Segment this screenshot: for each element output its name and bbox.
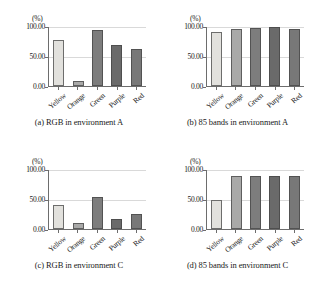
- bar-purple: [111, 219, 122, 229]
- plot-area-c: (%) 100.0050.000.00 YellowOrangeGreenPur…: [0, 143, 158, 289]
- x-tick-mark: [255, 87, 256, 90]
- bar-purple: [111, 45, 122, 86]
- x-tick-mark: [216, 87, 217, 90]
- bar-orange: [231, 29, 242, 86]
- x-tick-mark: [117, 87, 118, 90]
- y-tick-label-0-00: 0.00: [160, 225, 203, 234]
- y-tick-mark: [45, 87, 48, 88]
- bar-yellow: [211, 32, 222, 86]
- x-tick-mark: [97, 230, 98, 233]
- y-tick-label-0-00: 0.00: [160, 82, 203, 91]
- y-tick-label-100-00: 100.00: [160, 22, 203, 31]
- x-tick-mark: [235, 87, 236, 90]
- y-tick-mark: [45, 57, 48, 58]
- x-tick-mark: [77, 87, 78, 90]
- x-tick-mark: [294, 87, 295, 90]
- bar-red: [289, 29, 300, 86]
- x-tick-mark: [77, 230, 78, 233]
- chart-panel-c: (%) 100.0050.000.00 YellowOrangeGreenPur…: [0, 143, 158, 289]
- y-tick-mark: [203, 230, 206, 231]
- bar-series-b: [207, 27, 304, 86]
- y-tick-mark: [45, 27, 48, 28]
- bar-red: [131, 214, 142, 229]
- y-tick-mark: [203, 200, 206, 201]
- x-tick-mark: [136, 87, 137, 90]
- x-tick-mark: [235, 230, 236, 233]
- panel-caption-d: (d) 85 bands in environment C: [158, 260, 317, 270]
- bar-green: [250, 176, 261, 229]
- x-tick-mark: [136, 230, 137, 233]
- bar-series-a: [49, 27, 146, 86]
- bar-green: [92, 197, 103, 229]
- x-tick-mark: [58, 230, 59, 233]
- x-tick-mark: [294, 230, 295, 233]
- bar-orange: [73, 223, 84, 229]
- bar-series-d: [207, 170, 304, 229]
- y-tick-label-100-00: 100.00: [160, 165, 203, 174]
- x-tick-mark: [117, 230, 118, 233]
- axes-c: [48, 170, 146, 230]
- bar-yellow: [53, 40, 64, 86]
- y-tick-label-0-00: 0.00: [2, 82, 45, 91]
- axes-a: [48, 27, 146, 87]
- axes-b: [206, 27, 304, 87]
- panel-caption-a: (a) RGB in environment A: [0, 117, 158, 127]
- axes-d: [206, 170, 304, 230]
- y-tick-label-100-00: 100.00: [2, 22, 45, 31]
- chart-panel-d: (%) 100.0050.000.00 YellowOrangeGreenPur…: [158, 143, 317, 289]
- bar-red: [289, 176, 300, 229]
- bar-green: [92, 30, 103, 86]
- y-tick-mark: [45, 200, 48, 201]
- y-tick-mark: [45, 170, 48, 171]
- y-tick-label-100-00: 100.00: [2, 165, 45, 174]
- y-tick-mark: [203, 57, 206, 58]
- y-tick-label-0-00: 0.00: [2, 225, 45, 234]
- y-tick-mark: [203, 27, 206, 28]
- x-tick-mark: [255, 230, 256, 233]
- bar-orange: [73, 81, 84, 86]
- x-tick-mark: [275, 230, 276, 233]
- y-tick-label-50-00: 50.00: [2, 195, 45, 204]
- panel-caption-b: (b) 85 bands in environment A: [158, 117, 317, 127]
- bar-green: [250, 28, 261, 86]
- y-tick-mark: [203, 170, 206, 171]
- plot-area-d: (%) 100.0050.000.00 YellowOrangeGreenPur…: [158, 143, 317, 289]
- plot-area-b: (%) 100.0050.000.00 YellowOrangeGreenPur…: [158, 0, 317, 143]
- bar-series-c: [49, 170, 146, 229]
- chart-panel-a: (%) 100.0050.000.00 YellowOrangeGreenPur…: [0, 0, 158, 143]
- x-tick-mark: [216, 230, 217, 233]
- x-tick-mark: [97, 87, 98, 90]
- panel-caption-c: (c) RGB in environment C: [0, 260, 158, 270]
- figure-grid: (%) 100.0050.000.00 YellowOrangeGreenPur…: [0, 0, 317, 289]
- x-tick-mark: [58, 87, 59, 90]
- bar-red: [131, 49, 142, 86]
- plot-area-a: (%) 100.0050.000.00 YellowOrangeGreenPur…: [0, 0, 158, 143]
- x-tick-mark: [275, 87, 276, 90]
- y-tick-label-50-00: 50.00: [160, 52, 203, 61]
- y-tick-label-50-00: 50.00: [160, 195, 203, 204]
- bar-purple: [269, 176, 280, 229]
- y-tick-mark: [203, 87, 206, 88]
- bar-purple: [269, 27, 280, 86]
- bar-orange: [231, 176, 242, 229]
- bar-yellow: [211, 200, 222, 229]
- bar-yellow: [53, 205, 64, 229]
- y-tick-label-50-00: 50.00: [2, 52, 45, 61]
- y-tick-mark: [45, 230, 48, 231]
- chart-panel-b: (%) 100.0050.000.00 YellowOrangeGreenPur…: [158, 0, 317, 143]
